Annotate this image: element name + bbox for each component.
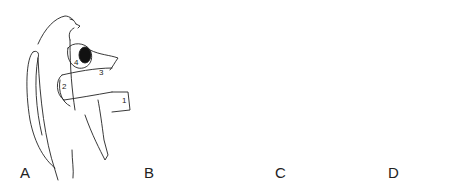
panel-label-d: D [388, 164, 399, 181]
panel-label-a: A [20, 164, 30, 181]
panel-label-c: C [275, 164, 286, 181]
panel-label-b: B [144, 164, 154, 181]
figure-illustration [0, 0, 475, 191]
step-number-2: 2 [62, 82, 66, 91]
panel-a-bird [27, 16, 130, 180]
step-number-3: 3 [99, 68, 103, 77]
step-number-4: 4 [74, 58, 78, 67]
step-number-1: 1 [122, 96, 126, 105]
bandage-figure: 4 3 2 1 A B [0, 0, 475, 191]
